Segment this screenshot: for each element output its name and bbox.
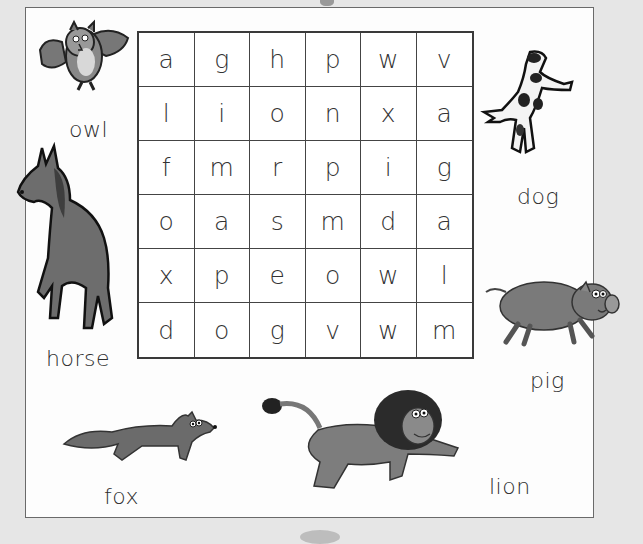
grid-cell[interactable]: g [417, 141, 473, 195]
grid-cell[interactable]: l [139, 87, 195, 141]
grid-cell[interactable]: d [361, 195, 417, 249]
grid-cell[interactable]: d [139, 303, 195, 357]
grid-cell[interactable]: p [306, 33, 362, 87]
grid-cell[interactable]: i [361, 141, 417, 195]
dog-icon [480, 48, 580, 158]
grid-cell[interactable]: p [195, 249, 251, 303]
grid-cell[interactable]: v [306, 303, 362, 357]
grid-cell[interactable]: o [195, 303, 251, 357]
lion-icon [258, 384, 468, 494]
dog-label: dog [517, 184, 559, 209]
grid-cell[interactable]: a [417, 195, 473, 249]
fox-label: fox [104, 484, 139, 509]
grid-cell[interactable]: p [306, 141, 362, 195]
grid-cell[interactable]: s [250, 195, 306, 249]
horse-label: horse [46, 346, 110, 371]
grid-cell[interactable]: w [361, 249, 417, 303]
grid-cell[interactable]: m [306, 195, 362, 249]
word-search-grid: a g h p w v l i o n x a f m r p i g o a … [137, 31, 474, 359]
grid-cell[interactable]: o [306, 249, 362, 303]
grid-cell[interactable]: f [139, 141, 195, 195]
lion-label: lion [489, 474, 531, 499]
grid-cell[interactable]: v [417, 33, 473, 87]
grid-cell[interactable]: h [250, 33, 306, 87]
page-edge-mark [300, 530, 340, 544]
grid-cell[interactable]: g [195, 33, 251, 87]
grid-cell[interactable]: g [250, 303, 306, 357]
grid-cell[interactable]: m [195, 141, 251, 195]
grid-cell[interactable]: i [195, 87, 251, 141]
pig-label: pig [530, 368, 565, 393]
grid-cell[interactable]: o [250, 87, 306, 141]
grid-cell[interactable]: o [139, 195, 195, 249]
pig-icon [484, 268, 624, 348]
grid-cell[interactable]: e [250, 249, 306, 303]
horse-icon [12, 138, 122, 338]
grid-cell[interactable]: x [139, 249, 195, 303]
owl-icon [32, 12, 132, 92]
grid-cell[interactable]: l [417, 249, 473, 303]
grid-cell[interactable]: a [195, 195, 251, 249]
grid-cell[interactable]: a [417, 87, 473, 141]
grid-cell[interactable]: m [417, 303, 473, 357]
grid-cell[interactable]: w [361, 303, 417, 357]
grid-cell[interactable]: n [306, 87, 362, 141]
grid-cell[interactable]: a [139, 33, 195, 87]
grid-cell[interactable]: w [361, 33, 417, 87]
fox-icon [62, 402, 232, 472]
grid-cell[interactable]: x [361, 87, 417, 141]
grid-cell[interactable]: r [250, 141, 306, 195]
page-edge-mark [320, 0, 334, 6]
